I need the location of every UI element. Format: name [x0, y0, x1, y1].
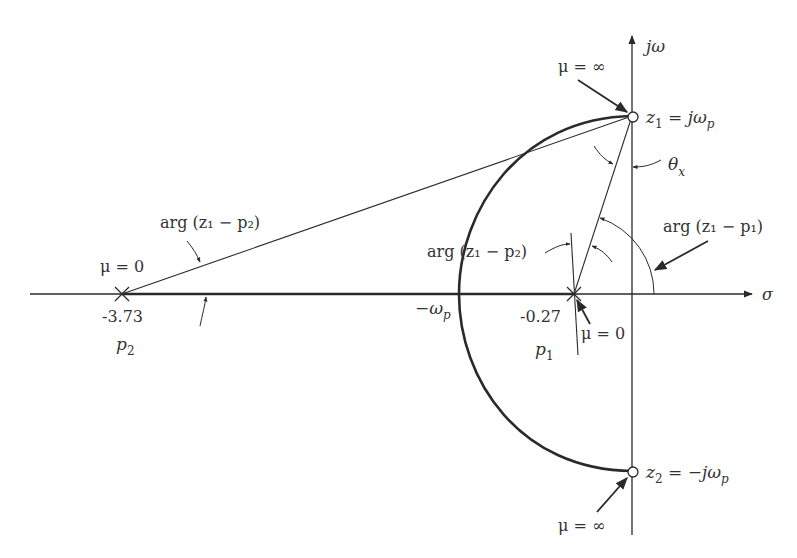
- root-locus-diagram: jω σ μ = ∞ z1 = jωp θx arg (z₁ − p₁) arg…: [0, 0, 797, 558]
- leader-arg-z1-p2-left: [187, 241, 200, 262]
- real-axis-label: σ: [762, 285, 774, 304]
- angle-arc-z1-top: [594, 146, 613, 164]
- zero-z2-marker: [628, 467, 638, 477]
- leader-real-axis-angle: [200, 297, 206, 326]
- leader-arg-z1-p1: [655, 241, 708, 270]
- z2-gain-label: μ = ∞: [558, 516, 605, 535]
- leader-mu-inf-z1: [578, 80, 627, 112]
- p2-value-label: -3.73: [102, 307, 143, 326]
- leader-mu-0-p1: [577, 300, 590, 324]
- vector-z1-p2: [122, 116, 632, 294]
- angle-arc-theta: [633, 160, 661, 167]
- leader-mu-inf-z2: [597, 478, 627, 512]
- angle-arc-z1-p1: [600, 218, 654, 294]
- leader-arg-z1-p2-mid: [545, 244, 570, 253]
- p2-gain-label: μ = 0: [100, 257, 144, 276]
- arg-z1-p2-mid-label: arg (z₁ − p₂): [427, 242, 527, 261]
- imag-axis-label: jω: [642, 36, 665, 56]
- zero-z1-marker: [628, 112, 638, 122]
- p2-name-label: p2: [116, 334, 135, 358]
- angle-arc-small-p1: [592, 246, 612, 262]
- neg-omega-p-label: −ωp: [415, 298, 451, 322]
- p1-name-label: p1: [535, 339, 554, 363]
- arg-z1-p1-label: arg (z₁ − p₁): [663, 217, 763, 236]
- p1-value-label: -0.27: [520, 307, 561, 326]
- arg-z1-p2-left-label: arg (z₁ − p₂): [160, 213, 260, 232]
- z1-gain-label: μ = ∞: [558, 57, 605, 76]
- vector-z1-p1: [574, 116, 632, 294]
- diagram-canvas: jω σ μ = ∞ z1 = jωp θx arg (z₁ − p₁) arg…: [0, 0, 797, 558]
- theta-x-label: θx: [668, 154, 685, 179]
- p1-gain-label: μ = 0: [581, 324, 625, 343]
- z2-label: z2 = −jωp: [645, 462, 729, 486]
- z1-label: z1 = jωp: [645, 107, 715, 131]
